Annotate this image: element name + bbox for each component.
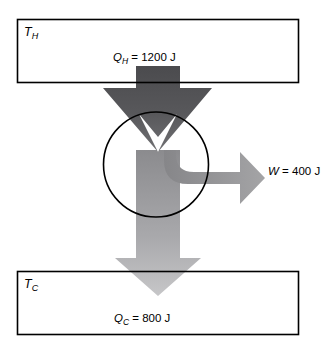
hot-reservoir-symbol: T bbox=[24, 25, 32, 39]
heat-rejected-value: 800 bbox=[142, 312, 161, 324]
diagram-canvas: TH TC QH = 1200 J QC = 800 J W = 400 J bbox=[0, 0, 336, 352]
hot-reservoir-subscript: H bbox=[32, 32, 39, 41]
heat-input-value: 1200 bbox=[141, 51, 167, 63]
heat-rejected-symbol: Q bbox=[114, 312, 123, 324]
work-output-value: 400 bbox=[292, 165, 311, 177]
heat-input-equals: = bbox=[131, 51, 138, 63]
work-output-symbol: W bbox=[268, 165, 279, 177]
work-output-unit: J bbox=[314, 165, 320, 177]
cold-reservoir-label: TC bbox=[24, 278, 38, 291]
heat-rejected-subscript: C bbox=[123, 318, 129, 327]
work-output-label: W = 400 J bbox=[268, 166, 320, 178]
cold-reservoir-symbol: T bbox=[24, 277, 32, 291]
heat-rejected-unit: J bbox=[165, 312, 171, 324]
cold-reservoir-subscript: C bbox=[32, 284, 39, 293]
heat-input-unit: J bbox=[170, 51, 176, 63]
work-output-equals: = bbox=[282, 165, 289, 177]
heat-rejected-label: QC = 800 J bbox=[114, 313, 170, 325]
hot-reservoir-label: TH bbox=[24, 26, 38, 39]
heat-rejected-equals: = bbox=[132, 312, 139, 324]
heat-input-symbol: Q bbox=[113, 51, 122, 63]
heat-input-arrow bbox=[103, 66, 212, 152]
heat-input-label: QH = 1200 J bbox=[113, 52, 176, 64]
heat-input-subscript: H bbox=[122, 57, 128, 66]
